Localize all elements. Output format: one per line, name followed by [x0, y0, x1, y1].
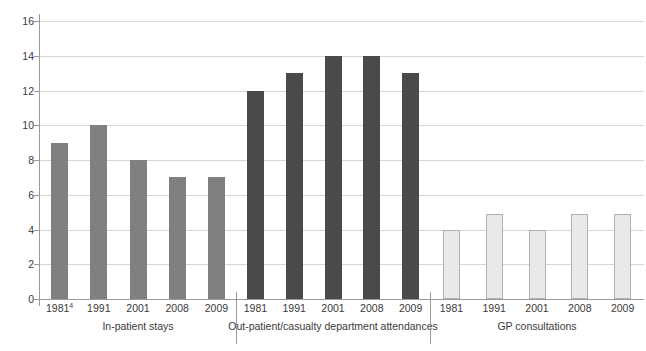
category-tick-label: 2009	[399, 303, 422, 314]
y-tick-mark	[34, 21, 39, 22]
bar	[614, 214, 631, 299]
y-tick-mark	[34, 125, 39, 126]
group-separator	[236, 292, 237, 344]
bar	[402, 73, 419, 299]
y-tick-label: 0	[28, 294, 34, 305]
bar	[247, 91, 264, 300]
category-tick-label: 2009	[611, 303, 634, 314]
bar	[90, 125, 107, 299]
bar	[130, 160, 147, 299]
y-tick-mark	[34, 299, 39, 300]
category-tick-label: 1981	[244, 303, 267, 314]
y-tick-label: 4	[28, 224, 34, 235]
category-tick-label: 19814	[46, 303, 73, 314]
bar-chart: 0246810121416 19814199120012008200919811…	[0, 0, 646, 351]
gridline	[40, 91, 644, 92]
category-tick-label: 2008	[166, 303, 189, 314]
gridline	[40, 56, 644, 57]
y-tick-mark	[34, 230, 39, 231]
group-name-label: Out-patient/casualty department attendan…	[228, 321, 438, 332]
bar	[529, 230, 546, 300]
plot-area	[40, 21, 644, 299]
bar	[208, 177, 225, 299]
y-tick-label: 2	[28, 259, 34, 270]
bar	[51, 143, 68, 299]
category-tick-label: 1991	[283, 303, 306, 314]
y-tick-mark	[34, 91, 39, 92]
category-tick-label: 2001	[126, 303, 149, 314]
bar	[443, 230, 460, 300]
category-tick-label: 2001	[321, 303, 344, 314]
bar	[571, 214, 588, 299]
category-tick-label: 2008	[568, 303, 591, 314]
y-tick-label: 12	[22, 85, 34, 96]
y-tick-mark	[34, 264, 39, 265]
y-tick-label: 14	[22, 51, 34, 62]
group-name-label: GP consultations	[497, 321, 576, 332]
y-tick-mark	[34, 195, 39, 196]
category-tick-label: 2008	[360, 303, 383, 314]
bar	[286, 73, 303, 299]
category-tick-label: 1981	[440, 303, 463, 314]
bar	[363, 56, 380, 299]
gridline	[40, 21, 644, 22]
y-tick-label: 16	[22, 16, 34, 27]
footnote-marker: 4	[69, 302, 73, 309]
category-tick-label: 1991	[87, 303, 110, 314]
gridline	[40, 125, 644, 126]
y-tick-label: 6	[28, 190, 34, 201]
category-tick-label: 1991	[483, 303, 506, 314]
group-separator	[430, 292, 431, 344]
y-tick-mark	[34, 160, 39, 161]
bar	[486, 214, 503, 299]
y-tick-mark	[34, 56, 39, 57]
group-name-label: In-patient stays	[102, 321, 173, 332]
category-tick-label: 2009	[205, 303, 228, 314]
bar	[169, 177, 186, 299]
category-tick-label: 2001	[525, 303, 548, 314]
category-axis: 1981419912001200820091981199120012008200…	[40, 299, 644, 351]
y-tick-label: 8	[28, 155, 34, 166]
bar	[325, 56, 342, 299]
y-tick-label: 10	[22, 120, 34, 131]
